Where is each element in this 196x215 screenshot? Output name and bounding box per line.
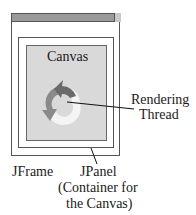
jpanel-label: JPanel: [80, 165, 117, 179]
jframe-label: JFrame: [12, 165, 53, 179]
panel-leader-line: [91, 148, 97, 164]
thread-label-line2: Thread: [139, 108, 179, 122]
jpanel-description-line2: the Canvas): [66, 197, 132, 211]
jpanel-description-line1: (Container for: [58, 181, 138, 195]
thread-label-line1: Rendering: [131, 93, 189, 107]
